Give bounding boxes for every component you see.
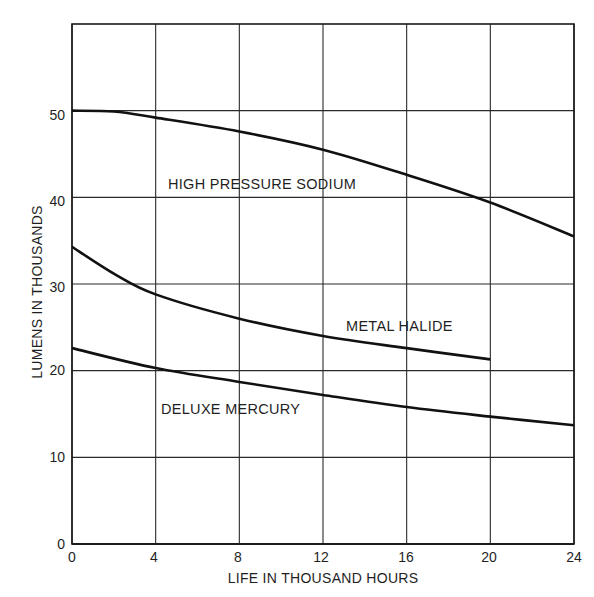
y-tick: 40 [49, 193, 65, 209]
series-label-metal-halide: METAL HALIDE [346, 318, 453, 334]
y-tick: 30 [49, 279, 65, 295]
y-tick: 0 [57, 536, 65, 552]
y-axis-label: LUMENS IN THOUSANDS [29, 205, 45, 378]
x-axis-label: LIFE IN THOUSAND HOURS [228, 570, 419, 586]
series-label-deluxe-mercury: DELUXE MERCURY [161, 401, 300, 417]
y-tick: 20 [49, 362, 65, 378]
y-axis-ticks: 0 10 20 30 40 50 [49, 107, 65, 552]
x-tick: 16 [398, 549, 414, 565]
x-tick: 0 [68, 549, 76, 565]
x-tick: 12 [313, 549, 329, 565]
x-tick: 20 [481, 549, 497, 565]
lumen-depreciation-chart: 0 10 20 30 40 50 0 4 8 12 16 20 24 LIFE … [0, 0, 594, 597]
series-label-high-pressure-sodium: HIGH PRESSURE SODIUM [168, 176, 356, 192]
x-tick: 8 [234, 549, 242, 565]
x-tick: 4 [150, 549, 158, 565]
x-axis-ticks: 0 4 8 12 16 20 24 [68, 549, 582, 565]
x-tick: 24 [566, 549, 582, 565]
y-tick: 50 [49, 107, 65, 123]
series-line-metal-halide [72, 247, 490, 360]
grid-lines [72, 24, 574, 544]
y-tick: 10 [49, 449, 65, 465]
